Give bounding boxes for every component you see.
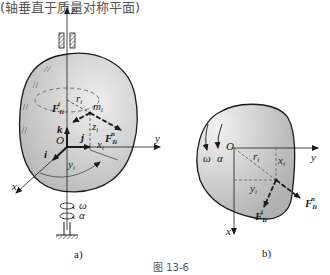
panel-b-caption: b)	[262, 247, 272, 260]
y-axis-label-b: y	[310, 151, 316, 163]
alpha-label: α	[79, 209, 85, 221]
normal-force-label-b: FIin	[304, 195, 317, 211]
alpha-rotation-icon	[60, 213, 75, 219]
omega-label-b: ω	[203, 152, 211, 164]
omega-rotation-icon	[60, 203, 75, 209]
x-axis-label-b: x	[225, 225, 231, 237]
origin-label-b: O	[226, 140, 234, 152]
origin-label: O	[56, 134, 64, 146]
x-axis-label: x	[11, 180, 17, 192]
y-axis-label: y	[154, 132, 160, 144]
panel-a: z y x O k j i ri mi zi xi yi FIin FIit	[11, 4, 160, 261]
panel-b: y x O ri xi yi FIin FIit ω α b)	[197, 104, 318, 260]
rigid-body-a	[20, 53, 138, 192]
figure-13-6: z y x O k j i ri mi zi xi yi FIin FIit	[0, 0, 330, 275]
alpha-label-b: α	[217, 152, 223, 164]
panel-a-caption: a)	[74, 248, 83, 261]
k-label: k	[57, 123, 63, 135]
figure-caption: 图 13-6	[153, 262, 189, 273]
z-axis-label: z	[70, 4, 76, 16]
